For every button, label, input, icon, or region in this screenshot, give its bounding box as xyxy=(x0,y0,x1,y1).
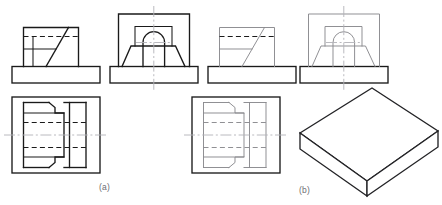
caption-b: (b) xyxy=(299,185,310,195)
caption-a: (a) xyxy=(99,182,110,192)
front-view-a-base-plate xyxy=(12,67,100,84)
top-view-b xyxy=(184,97,288,173)
isometric-slab xyxy=(300,88,438,196)
section-view-b-outer-outline xyxy=(309,14,380,67)
technical-drawing-figure: .hv { fill:none; stroke:#1a1a1a; stroke-… xyxy=(0,0,442,205)
front-view-a-body-outline xyxy=(24,28,79,67)
section-view-b xyxy=(300,6,388,91)
front-view-b-body-outline xyxy=(220,28,275,67)
section-view-a-outer-outline xyxy=(119,14,190,67)
front-view-b xyxy=(208,28,296,84)
front-view-a-inclined-edge xyxy=(46,28,69,67)
front-view-b-base-plate xyxy=(208,67,296,84)
front-view-a xyxy=(12,28,100,84)
front-view-b-inclined-edge xyxy=(242,28,265,67)
top-view-a xyxy=(4,97,108,173)
section-view-a xyxy=(110,6,198,91)
drawing-canvas: .hv { fill:none; stroke:#1a1a1a; stroke-… xyxy=(0,0,442,205)
isometric-slab-top-face xyxy=(300,88,438,181)
